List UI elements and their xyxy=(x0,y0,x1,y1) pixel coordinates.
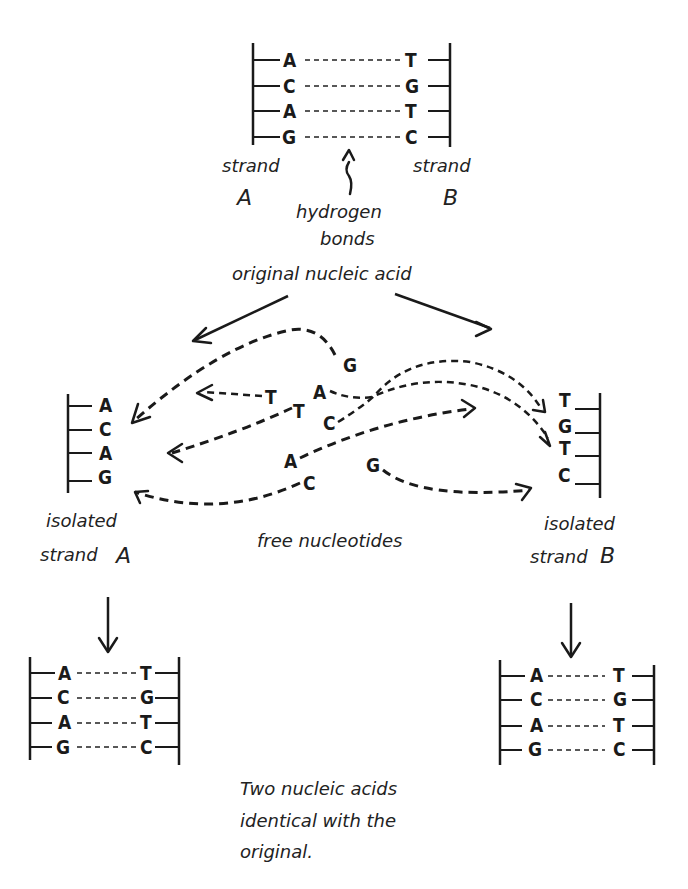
bonds-label: bonds xyxy=(320,228,375,249)
base-right: T xyxy=(613,664,625,686)
nucleotide: G xyxy=(343,354,357,376)
base-right: G xyxy=(405,75,419,97)
caption-line: Two nucleic acids xyxy=(240,778,397,799)
path-a-to-b xyxy=(330,382,548,438)
path-g-to-a xyxy=(135,329,335,420)
nucleotide: G xyxy=(366,454,380,476)
base-right: G xyxy=(613,688,627,710)
caption-line: identical with the xyxy=(240,810,396,831)
isolated-b-label: isolated xyxy=(544,513,616,534)
isolated-b-letter: B xyxy=(600,543,615,568)
path-t-to-left xyxy=(205,392,262,396)
base: T xyxy=(559,389,571,411)
nucleotide: C xyxy=(303,472,316,494)
caption-line: original. xyxy=(240,841,313,862)
base-right: T xyxy=(140,711,152,733)
nucleotide: C xyxy=(323,412,336,434)
arrow-head-icon xyxy=(533,400,545,412)
base-right: C xyxy=(613,738,626,760)
base-left: G xyxy=(56,736,70,758)
base-left: C xyxy=(57,686,70,708)
base-left: G xyxy=(528,738,542,760)
caption: Two nucleic acids identical with the ori… xyxy=(240,778,397,862)
replication-arrows xyxy=(99,597,580,657)
result-nucleic-acid-right: A C A G T G T C xyxy=(500,660,654,765)
base: G xyxy=(558,415,572,437)
base-left: A xyxy=(283,100,297,122)
separation-arrows xyxy=(193,294,491,343)
base-left: C xyxy=(530,688,543,710)
path-t-to-a xyxy=(172,408,292,453)
hydrogen-label: hydrogen xyxy=(296,201,382,222)
isolated-a-letter: A xyxy=(114,543,131,568)
isolated-strand-a: A C A G isolated strand A xyxy=(40,394,131,568)
base-right: G xyxy=(140,686,154,708)
path-g-to-b xyxy=(383,470,530,493)
base-right: T xyxy=(140,662,152,684)
path-c-to-a xyxy=(135,483,300,504)
isolated-b-label: strand xyxy=(530,546,588,567)
strand-a-label: strand xyxy=(222,155,280,176)
isolated-a-label: strand xyxy=(40,544,98,565)
pointer-arrow-icon xyxy=(347,162,352,194)
isolated-strand-b: T G T C isolated strand B xyxy=(530,389,616,568)
base-left: C xyxy=(283,75,296,97)
nucleotide: A xyxy=(313,381,327,403)
strand-a-letter: A xyxy=(235,185,252,210)
base-right: C xyxy=(405,126,418,148)
arrow-head-icon xyxy=(540,432,550,446)
isolated-a-label: isolated xyxy=(46,510,118,531)
base-left: G xyxy=(282,126,296,148)
base-left: A xyxy=(530,664,544,686)
arrow-down-right-icon xyxy=(476,322,491,336)
result-nucleic-acid-left: A C A G T G T C xyxy=(30,657,179,765)
base-left: A xyxy=(58,711,72,733)
free-nucleotides: G T T A C A C G free nucleotides xyxy=(132,329,550,551)
base: A xyxy=(99,442,113,464)
original-nucleic-acid: A C A G T G T C strand A strand B hydrog… xyxy=(222,43,471,284)
base-left: A xyxy=(58,662,72,684)
base-right: T xyxy=(405,49,417,71)
base: C xyxy=(558,464,571,486)
arrow-head-icon xyxy=(343,150,354,160)
base: A xyxy=(99,394,113,416)
strand-b-label: strand xyxy=(413,155,471,176)
path-c-to-b xyxy=(338,361,542,422)
free-nucleotides-label: free nucleotides xyxy=(257,530,402,551)
base-right: C xyxy=(140,736,153,758)
base-left: A xyxy=(283,49,297,71)
nucleotide: A xyxy=(284,450,298,472)
base-left: A xyxy=(530,714,544,736)
base-right: T xyxy=(405,100,417,122)
base: C xyxy=(99,418,112,440)
base: T xyxy=(559,437,571,459)
original-nucleic-acid-title: original nucleic acid xyxy=(232,263,412,284)
base: G xyxy=(98,466,112,488)
strand-b-letter: B xyxy=(443,185,458,210)
nucleotide: T xyxy=(265,386,277,408)
nucleotide: T xyxy=(293,400,305,422)
base-right: T xyxy=(613,714,625,736)
arrow-head-icon xyxy=(135,491,148,503)
dna-replication-diagram: A C A G T G T C strand A strand B hydrog… xyxy=(0,0,688,889)
